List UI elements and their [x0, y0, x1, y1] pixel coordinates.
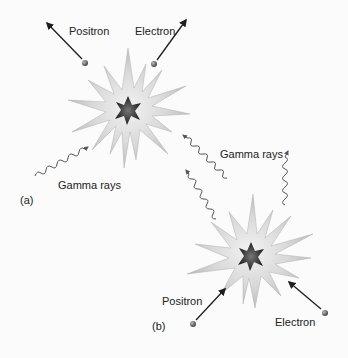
gamma-ray-right-wave: [283, 151, 289, 205]
gamma-rays-shared-label: Gamma rays: [220, 149, 283, 160]
electron-b-arrow: [289, 282, 321, 309]
electron-b-particle: [322, 310, 328, 316]
electron-a-particle: [151, 61, 157, 67]
burst-a: [68, 48, 190, 168]
panel-b-tag: (b): [152, 321, 165, 332]
positron-a-label: Positron: [69, 26, 109, 37]
positron-b-label: Positron: [162, 296, 202, 307]
gamma-ray-left-lower-wave: [186, 170, 216, 219]
positron-a-particle: [82, 60, 88, 66]
electron-a-label: Electron: [135, 26, 175, 37]
gamma-ray-a-wave: [35, 147, 88, 176]
electron-b-label: Electron: [275, 317, 315, 328]
burst-b: [187, 194, 313, 308]
panel-a-tag: (a): [20, 195, 33, 206]
pair-production-annihilation-diagram: Positron Electron Gamma rays (a) Gamma r…: [0, 0, 348, 358]
positron-b-particle: [190, 321, 196, 327]
gamma-rays-a-label: Gamma rays: [58, 180, 121, 191]
